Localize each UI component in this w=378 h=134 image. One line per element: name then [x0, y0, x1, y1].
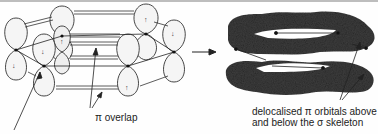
delocalised-label-line2: and below the σ skeleton: [252, 117, 377, 128]
spin-up-icon: ↑: [60, 38, 64, 46]
benzene-orbital-diagram: ↑ ↓ ↓ ↑ ↓: [0, 0, 378, 134]
pi-overlap-label: π overlap: [95, 112, 137, 123]
spin-down-icon: ↓: [12, 62, 16, 70]
delocalised-label-line1: delocalised π orbitals above: [252, 106, 377, 117]
right-arrow-icon: [192, 49, 216, 55]
spin-down-icon: ↓: [171, 30, 175, 38]
spin-up-icon: ↑: [144, 16, 148, 24]
spin-up-icon: ↑: [125, 84, 129, 92]
spin-down-icon: ↓: [41, 48, 45, 56]
delocalised-label: delocalised π orbitals above and below t…: [252, 106, 377, 128]
